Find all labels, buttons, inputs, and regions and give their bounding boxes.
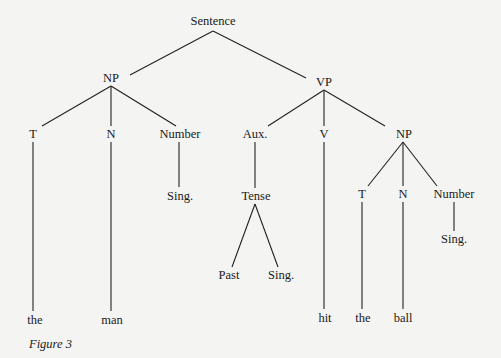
node-n-object: N <box>398 187 407 201</box>
node-np-subject: NP <box>103 71 119 85</box>
leaf-hit: hit <box>318 311 332 325</box>
tree-edges <box>33 31 454 311</box>
edge-np-t <box>42 86 111 126</box>
node-number-subject: Number <box>160 127 202 141</box>
edge-vp-np <box>324 90 385 126</box>
node-tense: Tense <box>242 189 271 203</box>
node-n-subject: N <box>106 127 115 141</box>
node-sing-tense: Sing. <box>268 268 294 282</box>
edge-np-number <box>111 86 176 126</box>
node-sing-subject: Sing. <box>167 189 193 203</box>
leaf-the-object: the <box>355 311 371 325</box>
leaf-man: man <box>101 313 123 327</box>
edge-tense-past <box>232 204 255 267</box>
node-aux: Aux. <box>243 127 268 141</box>
node-np-object: NP <box>396 127 412 141</box>
edge-np2-t <box>368 142 403 186</box>
node-t-object: T <box>358 187 366 201</box>
node-sing-object: Sing. <box>441 232 467 246</box>
edge-tense-sing <box>255 204 278 267</box>
tree-nodes: Sentence NP VP T N Number Sing. Aux. V N… <box>27 14 475 327</box>
edge-np2-number <box>403 142 437 186</box>
node-vp: VP <box>316 75 332 89</box>
edge-sentence-np <box>130 31 213 75</box>
node-t-subject: T <box>29 127 37 141</box>
node-number-object: Number <box>434 187 476 201</box>
leaf-the-subject: the <box>27 313 43 327</box>
edge-vp-aux <box>268 90 324 126</box>
figure-caption: Figure 3 <box>28 337 72 351</box>
node-past: Past <box>219 268 240 282</box>
syntax-tree-diagram: Sentence NP VP T N Number Sing. Aux. V N… <box>0 0 501 358</box>
node-sentence: Sentence <box>190 14 236 28</box>
leaf-ball: ball <box>394 311 413 325</box>
node-v: V <box>319 127 328 141</box>
edge-sentence-vp <box>213 31 306 78</box>
